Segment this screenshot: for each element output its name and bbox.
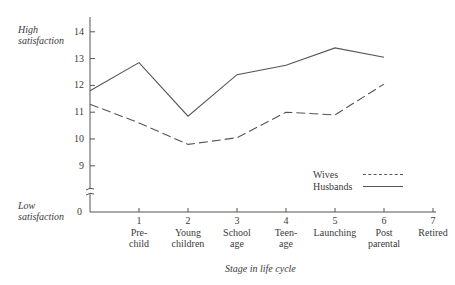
legend: Wives Husbands <box>313 168 403 192</box>
y-tick-label: 13 <box>70 53 84 64</box>
y-tick-label: 9 <box>70 160 84 171</box>
x-axis-title: Stage in life cycle <box>225 263 296 274</box>
high-label-line2: satisfaction <box>18 35 64 46</box>
solid-line-icon <box>363 186 403 187</box>
y-tick-label: 0 <box>68 206 82 217</box>
husbands-line <box>90 48 384 116</box>
x-ticks <box>139 208 433 212</box>
legend-item-husbands: Husbands <box>313 180 403 192</box>
low-label-line2: satisfaction <box>18 211 64 222</box>
y-tick-label: 14 <box>70 26 84 37</box>
dashed-line-icon <box>363 174 403 175</box>
y-tick-label: 12 <box>70 79 84 90</box>
wives-line <box>90 84 384 144</box>
legend-item-wives: Wives <box>313 168 403 180</box>
axis-break-icon <box>86 188 94 195</box>
y-ticks <box>90 32 95 166</box>
low-satisfaction-label: Low satisfaction <box>18 200 64 222</box>
x-tick-label: 7Retired <box>403 215 455 238</box>
y-tick-label: 10 <box>70 133 84 144</box>
chart: High satisfaction Low satisfaction 14131… <box>0 0 455 285</box>
y-tick-label: 11 <box>70 106 84 117</box>
legend-label-wives: Wives <box>313 169 359 180</box>
high-satisfaction-label: High satisfaction <box>18 24 64 46</box>
legend-label-husbands: Husbands <box>313 181 359 192</box>
high-label-line1: High <box>18 24 64 35</box>
low-label-line1: Low <box>18 200 64 211</box>
